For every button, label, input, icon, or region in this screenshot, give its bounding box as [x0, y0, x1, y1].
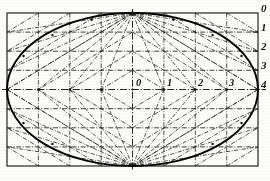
edge-label-v-2: 2 — [261, 41, 267, 52]
right-edge-ticks — [253, 32, 258, 70]
axis-label-h-3: 3 — [229, 78, 234, 89]
ellipse-construction-figure: .frame{fill:none;stroke:#1a1a1a;stroke-w… — [0, 0, 270, 181]
edge-label-v-0: 0 — [261, 3, 267, 14]
axis-label-h-0: 0 — [136, 78, 141, 89]
axis-label-h-2: 2 — [198, 78, 203, 89]
edge-label-v-3: 3 — [261, 60, 267, 71]
drawing-canvas: .frame{fill:none;stroke:#1a1a1a;stroke-w… — [0, 0, 270, 181]
axis-label-h-1: 1 — [167, 78, 172, 89]
edge-label-v-1: 1 — [261, 22, 267, 33]
edge-label-v-4: 4 — [261, 79, 267, 90]
